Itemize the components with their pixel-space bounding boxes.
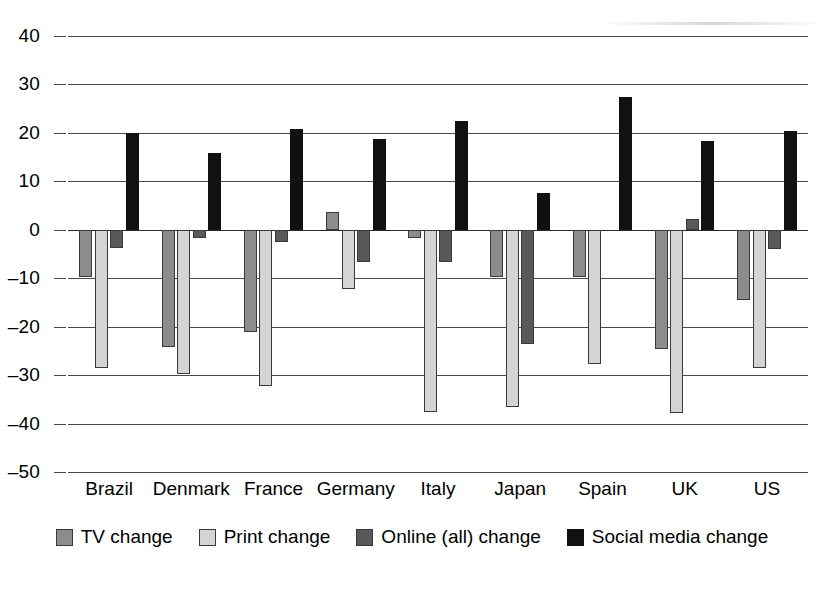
- x-axis-label-germany: Germany: [315, 478, 397, 500]
- bar-uk-social: [701, 141, 714, 230]
- bar-group-france: [232, 36, 314, 472]
- bar-germany-social: [373, 139, 386, 230]
- plot-area: [68, 36, 808, 472]
- bar-group-japan: [479, 36, 561, 472]
- bar-brazil-social: [126, 133, 139, 230]
- bar-uk-tv: [655, 230, 668, 349]
- x-axis-label-italy: Italy: [397, 478, 479, 500]
- bar-japan-online: [521, 230, 534, 344]
- bar-italy-print: [424, 230, 437, 412]
- bar-chart-figure: TV changePrint changeOnline (all) change…: [0, 0, 824, 596]
- x-axis-label-france: France: [232, 478, 314, 500]
- legend-item-print: Print change: [199, 526, 331, 548]
- legend-label: Online (all) change: [381, 526, 540, 548]
- bar-germany-online: [357, 230, 370, 262]
- bar-brazil-print: [95, 230, 108, 368]
- bar-spain-print: [588, 230, 601, 364]
- y-axis-tick-label: 0: [0, 220, 40, 239]
- y-tick-mark: [54, 424, 66, 425]
- bar-japan-social: [537, 193, 550, 229]
- bar-group-us: [726, 36, 808, 472]
- bar-group-italy: [397, 36, 479, 472]
- gridline--50: [68, 472, 808, 473]
- legend-label: TV change: [81, 526, 173, 548]
- bar-denmark-online: [193, 230, 206, 239]
- y-tick-mark: [54, 278, 66, 279]
- y-tick-mark: [54, 230, 66, 231]
- scan-artifact: [600, 22, 824, 25]
- bar-spain-tv: [573, 230, 586, 277]
- legend-item-tv: TV change: [56, 526, 173, 548]
- x-axis-label-spain: Spain: [561, 478, 643, 500]
- legend-swatch-tv-icon: [56, 529, 73, 546]
- x-axis-label-japan: Japan: [479, 478, 561, 500]
- legend-swatch-online-icon: [356, 529, 373, 546]
- bar-brazil-tv: [79, 230, 92, 277]
- x-axis-label-denmark: Denmark: [150, 478, 232, 500]
- x-axis-label-brazil: Brazil: [68, 478, 150, 500]
- y-tick-mark: [54, 375, 66, 376]
- bar-group-uk: [644, 36, 726, 472]
- bar-france-online: [275, 230, 288, 243]
- bar-spain-social: [619, 97, 632, 230]
- bar-denmark-print: [177, 230, 190, 374]
- bar-germany-print: [342, 230, 355, 289]
- y-tick-mark: [54, 181, 66, 182]
- bar-brazil-online: [110, 230, 123, 248]
- y-tick-mark: [54, 84, 66, 85]
- y-axis-tick-label: –10: [0, 268, 40, 287]
- y-axis-tick-label: 20: [0, 123, 40, 142]
- legend-label: Social media change: [592, 526, 768, 548]
- y-tick-mark: [54, 36, 66, 37]
- x-axis-label-us: US: [726, 478, 808, 500]
- y-axis-tick-label: 40: [0, 26, 40, 45]
- y-tick-mark: [54, 327, 66, 328]
- legend-swatch-social-icon: [567, 529, 584, 546]
- y-axis-tick-label: 10: [0, 171, 40, 190]
- bar-germany-tv: [326, 212, 339, 230]
- bar-denmark-social: [208, 153, 221, 230]
- bar-japan-print: [506, 230, 519, 407]
- bar-italy-social: [455, 121, 468, 230]
- x-axis-label-uk: UK: [644, 478, 726, 500]
- bar-uk-online: [686, 219, 699, 230]
- chart-legend: TV changePrint changeOnline (all) change…: [0, 526, 824, 548]
- bar-group-spain: [561, 36, 643, 472]
- legend-item-social: Social media change: [567, 526, 768, 548]
- y-axis-tick-label: 30: [0, 74, 40, 93]
- bar-france-tv: [244, 230, 257, 333]
- bar-group-denmark: [150, 36, 232, 472]
- legend-swatch-print-icon: [199, 529, 216, 546]
- y-axis-tick-label: –50: [0, 462, 40, 481]
- bar-group-germany: [315, 36, 397, 472]
- bar-uk-print: [670, 230, 683, 413]
- legend-label: Print change: [224, 526, 331, 548]
- bar-us-social: [784, 131, 797, 229]
- y-tick-mark: [54, 133, 66, 134]
- y-axis-tick-label: –30: [0, 365, 40, 384]
- bar-us-print: [753, 230, 766, 368]
- y-axis-tick-label: –20: [0, 317, 40, 336]
- bar-italy-tv: [408, 230, 421, 238]
- bar-group-brazil: [68, 36, 150, 472]
- bar-france-social: [290, 129, 303, 230]
- bar-us-tv: [737, 230, 750, 301]
- y-axis-tick-label: –40: [0, 414, 40, 433]
- bar-france-print: [259, 230, 272, 386]
- bar-italy-online: [439, 230, 452, 262]
- y-tick-mark: [54, 472, 66, 473]
- bar-denmark-tv: [162, 230, 175, 348]
- bar-us-online: [768, 230, 781, 249]
- legend-item-online: Online (all) change: [356, 526, 540, 548]
- bar-japan-tv: [490, 230, 503, 277]
